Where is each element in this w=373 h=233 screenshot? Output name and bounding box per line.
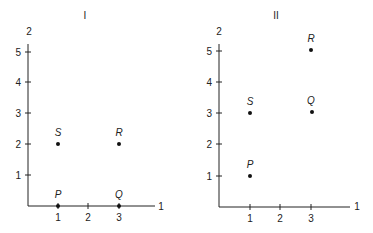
panel-2-xtick: 1 [247, 213, 253, 224]
panel-1-xtick: 3 [116, 212, 122, 223]
panel-1-ytick: 1 [15, 170, 21, 181]
point-label-p: P [55, 189, 62, 200]
point-label-q: Q [115, 189, 123, 200]
panel-1: I 2 1 5 4 3 2 1 1 2 3 P Q S R [15, 10, 164, 223]
panel-2-ytick: 5 [206, 46, 212, 57]
panel-2-xtick: 3 [308, 213, 314, 224]
panel-2-title: II [273, 10, 279, 21]
point-label-p: P [247, 159, 254, 170]
point-r [117, 142, 121, 146]
point-s [248, 111, 252, 115]
panel-2-ytick: 3 [206, 108, 212, 119]
panel-2: II 2 1 5 4 3 2 1 1 2 3 P S Q R [206, 10, 360, 224]
panel-1-title: I [84, 10, 87, 21]
point-r [309, 48, 313, 52]
point-s [56, 142, 60, 146]
panel-1-x-axis-label: 1 [158, 201, 164, 212]
point-label-s: S [55, 127, 62, 138]
point-q [310, 110, 314, 114]
point-p [248, 174, 252, 178]
panel-2-ytick: 1 [206, 171, 212, 182]
point-label-q: Q [307, 95, 315, 106]
point-q [117, 204, 121, 208]
panel-1-ytick: 2 [15, 139, 21, 150]
figure: I 2 1 5 4 3 2 1 1 2 3 P Q S R [0, 0, 373, 233]
point-p [56, 204, 60, 208]
panel-1-ytick: 3 [15, 108, 21, 119]
panel-1-xtick: 2 [85, 212, 91, 223]
panel-1-ytick: 5 [15, 47, 21, 58]
panel-2-ytick: 4 [206, 77, 212, 88]
point-label-r: R [115, 127, 122, 138]
panel-2-ytick: 2 [206, 139, 212, 150]
panel-2-xtick: 2 [277, 213, 283, 224]
point-label-s: S [247, 96, 254, 107]
panel-1-ytick: 4 [15, 77, 21, 88]
panel-1-y-axis-label: 2 [26, 26, 32, 37]
panel-2-x-axis-label: 1 [354, 201, 360, 212]
panel-2-y-axis-label: 2 [216, 26, 222, 37]
panel-1-xtick: 1 [55, 212, 61, 223]
point-label-r: R [307, 33, 314, 44]
